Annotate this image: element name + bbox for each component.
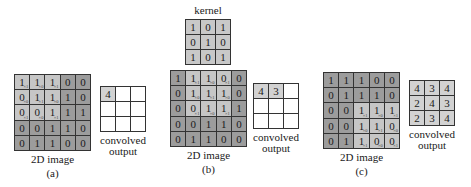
panel-caption: (c) [313, 166, 410, 177]
kernel-weight: ×1 [195, 80, 200, 85]
image-cell: 1 [61, 105, 75, 119]
kernel-title: kernel [185, 5, 231, 16]
image-cell: 0 [324, 134, 338, 148]
image-cell: 1 [217, 117, 231, 131]
image-cell: 0 [186, 117, 200, 131]
image-cell: 1×1 [385, 103, 399, 117]
output-grid-c: 434243234 [409, 80, 455, 126]
output-cell [284, 114, 298, 128]
image-cell: 0 [339, 119, 353, 133]
image-cell: 0 [232, 117, 246, 131]
image-cell: 1×1 [201, 86, 215, 100]
kernel-weight: ×1 [39, 99, 44, 104]
image-cell: 1 [30, 136, 44, 150]
image-cell: 1 [201, 117, 215, 131]
image-grid-b: 11×11×00×1001×01×11×0000×11×01×110011001… [170, 70, 247, 147]
image-cell: 0 [171, 101, 185, 115]
panel-caption: (b) [160, 164, 257, 175]
image-cell: 1×1 [45, 105, 59, 119]
output-cell: 4 [410, 81, 424, 95]
image-cell: 0 [324, 119, 338, 133]
output-cell [284, 84, 298, 98]
image-cell: 0 [385, 73, 399, 87]
image-cell: 1×1 [217, 101, 231, 115]
image-cell: 0×0 [385, 119, 399, 133]
image-cell: 1×0 [45, 90, 59, 104]
output-cell: 3 [425, 111, 439, 125]
image-cell: 0 [30, 121, 44, 135]
output-cell: 3 [269, 84, 283, 98]
output-cell: 4 [425, 96, 439, 110]
output-cell: 2 [410, 96, 424, 110]
image-cell: 1 [45, 121, 59, 135]
image-cell: 1×0 [186, 86, 200, 100]
image-cell: 1×1 [15, 75, 29, 89]
image-cell: 0 [15, 136, 29, 150]
output-cell [254, 99, 268, 113]
image-cell: 1 [45, 136, 59, 150]
image-cell: 0×0 [15, 90, 29, 104]
image-cell: 1×0 [201, 101, 215, 115]
image-cell: 0×1 [186, 101, 200, 115]
kernel-weight: ×0 [39, 115, 44, 120]
kernel-weight: ×0 [378, 113, 383, 118]
kernel-weight: ×0 [210, 80, 215, 85]
kernel-weight: ×1 [363, 113, 368, 118]
output-cell [101, 117, 115, 131]
image-cell: 1 [201, 132, 215, 146]
output-cell: 4 [440, 81, 454, 95]
image-cell: 1 [370, 88, 384, 102]
kernel-weight: ×1 [225, 80, 230, 85]
image-cell: 0 [171, 86, 185, 100]
kernel-weight: ×0 [363, 128, 368, 133]
image-cell: 0 [232, 86, 246, 100]
image-cell: 1 [186, 132, 200, 146]
kernel-cell: 1 [216, 20, 230, 34]
kernel-weight: ×0 [210, 111, 215, 116]
image-cell: 0×1 [217, 71, 231, 85]
kernel-cell: 1 [186, 50, 200, 64]
image-label: 2D image [4, 154, 101, 165]
image-cell: 0×1 [385, 134, 399, 148]
output-cell [116, 102, 130, 116]
kernel-weight: ×1 [23, 115, 28, 120]
output-cell [131, 87, 145, 101]
image-cell: 0 [385, 88, 399, 102]
output-cell: 4 [440, 111, 454, 125]
kernel-cell: 0 [201, 20, 215, 34]
image-cell: 0 [171, 117, 185, 131]
output-cell [269, 114, 283, 128]
image-cell: 0 [324, 88, 338, 102]
image-cell: 0 [61, 75, 75, 89]
image-cell: 1 [339, 73, 353, 87]
image-cell: 0 [217, 132, 231, 146]
output-grid-b: 43 [253, 83, 299, 129]
image-cell: 1×1 [186, 71, 200, 85]
output-cell [101, 102, 115, 116]
kernel-grid: 101010101 [185, 19, 231, 65]
image-cell: 1 [339, 134, 353, 148]
image-cell: 0×0 [370, 134, 384, 148]
kernel-weight: ×0 [393, 128, 398, 133]
image-cell: 1 [61, 90, 75, 104]
output-cell [116, 87, 130, 101]
image-cell: 0 [15, 121, 29, 135]
output-grid-a: 4 [100, 86, 146, 132]
kernel-weight: ×0 [225, 95, 230, 100]
image-cell: 1×0 [354, 119, 368, 133]
image-cell: 0 [370, 73, 384, 87]
kernel-weight: ×1 [393, 143, 398, 148]
output-cell [131, 117, 145, 131]
image-cell: 0 [76, 90, 90, 104]
image-cell: 0 [339, 103, 353, 117]
image-cell: 1 [354, 73, 368, 87]
output-cell [116, 117, 130, 131]
image-cell: 1×1 [354, 134, 368, 148]
kernel-cell: 0 [186, 35, 200, 49]
image-cell: 0×0 [30, 105, 44, 119]
kernel-weight: ×1 [363, 143, 368, 148]
kernel-weight: ×1 [378, 128, 383, 133]
image-cell: 1 [324, 73, 338, 87]
kernel-weight: ×1 [210, 95, 215, 100]
output-cell: 3 [440, 96, 454, 110]
